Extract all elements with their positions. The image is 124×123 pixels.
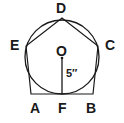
vertex-label-e: E (10, 38, 19, 52)
vertex-label-b: B (86, 101, 96, 115)
radius-measure-label: 5″ (66, 68, 77, 79)
center-label-o: O (56, 44, 67, 58)
geometry-figure: D E C O 5″ A F B (0, 0, 124, 123)
vertex-label-c: C (105, 38, 115, 52)
vertex-label-a: A (30, 101, 40, 115)
midpoint-label-f: F (58, 101, 67, 115)
vertex-label-d: D (56, 1, 66, 15)
